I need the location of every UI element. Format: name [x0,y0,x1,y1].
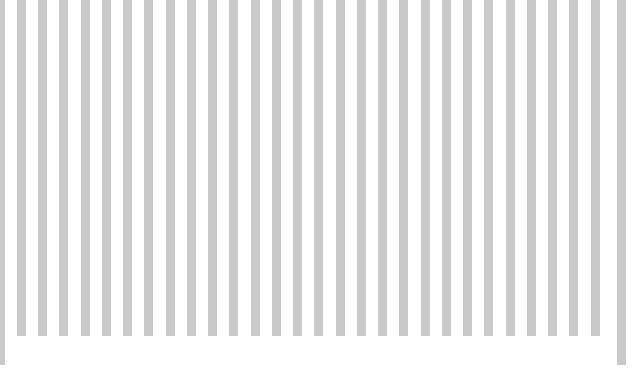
bar [442,0,451,336]
bar [421,0,430,336]
bar [208,0,217,336]
bar [81,0,90,336]
bar [357,0,366,336]
bar [527,0,536,336]
bar [102,0,111,336]
bar-chart-figure [0,0,638,381]
bar [144,0,153,336]
bar [378,0,387,336]
bar [187,0,196,336]
bar [463,0,472,336]
bar [506,0,515,336]
bar [38,0,47,336]
bar [336,0,345,336]
bar [548,0,557,336]
bar [569,0,578,336]
bar [314,0,323,336]
axis-spine [0,0,5,365]
axis-spine [617,0,626,365]
bar [399,0,408,336]
bar [123,0,132,336]
bar [59,0,68,336]
bar [251,0,260,336]
plot-area [0,0,638,381]
bar [229,0,238,336]
bar [293,0,302,336]
bar [591,0,600,336]
bar [484,0,493,336]
bar [272,0,281,336]
bar [166,0,175,336]
bar [17,0,26,336]
